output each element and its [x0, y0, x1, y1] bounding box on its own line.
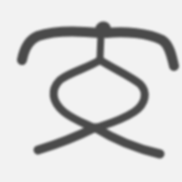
character-glyph-icon	[0, 0, 182, 182]
glyph-canvas: 文	[0, 0, 182, 182]
